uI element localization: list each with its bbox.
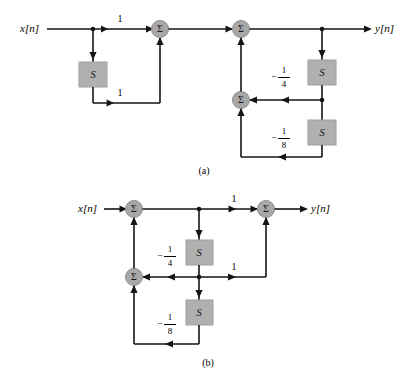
delay-b1-label: S: [196, 246, 202, 258]
adder-b2-label: Σ: [263, 203, 269, 214]
arrow-a-eighth-mid: [278, 153, 286, 160]
arrow-b-output: [300, 205, 308, 212]
adder-a3-label: Σ: [238, 94, 244, 105]
arrow-a-delay1-right: [107, 100, 114, 107]
gain-a-eighth-denominator: 8: [282, 140, 287, 150]
arrow-b-into-adder1-bottom: [130, 217, 137, 225]
arrow-b-quarter-mid: [167, 273, 175, 280]
adder-b1-label: Σ: [131, 203, 137, 214]
arrow-a-into-delay1: [89, 52, 96, 60]
arrow-b-into-delay2: [195, 290, 202, 298]
output-label-b: y[n]: [310, 202, 330, 214]
panel-b: Σ Σ S: [77, 193, 330, 369]
arrow-a-into-adder2-bottom: [237, 37, 244, 45]
gain-b-feedback-quarter-label: − 1 4: [157, 244, 176, 268]
arrow-b-ff-delayed-mid: [228, 273, 236, 280]
gain-b-quarter-denominator: 4: [168, 258, 173, 268]
arrow-a-into-adder3-right: [249, 96, 257, 103]
gain-b-eighth-sign: −: [157, 318, 163, 329]
panel-a: S Σ Σ S: [19, 13, 394, 177]
input-label-a: x[n]: [19, 22, 39, 34]
gain-a-eighth-numerator: 1: [282, 126, 287, 136]
arrow-a-quarter-mid: [281, 96, 289, 103]
arrow-b-into-adder3-bottom: [130, 285, 137, 293]
gain-a-feedback-quarter-label: − 1 4: [271, 65, 290, 89]
arrow-a-into-delay2: [318, 50, 325, 58]
gain-b-eighth-denominator: 8: [168, 326, 173, 336]
arrow-b-into-adder2-bottom: [262, 217, 269, 225]
gain-b-eighth-numerator: 1: [168, 312, 173, 322]
delay-b2-label: S: [196, 306, 202, 318]
arrow-a-output: [364, 25, 372, 32]
gain-a-quarter-denominator: 4: [282, 79, 287, 89]
gain-a-feedback-eighth-label: − 1 8: [271, 126, 290, 150]
input-label-b: x[n]: [77, 202, 97, 214]
delay-a1-label: S: [90, 68, 96, 80]
output-label-a: y[n]: [374, 22, 394, 34]
gain-a-quarter-numerator: 1: [282, 65, 287, 75]
delay-a2-label: S: [319, 66, 325, 78]
arrow-b-into-adder3-right: [142, 273, 150, 280]
arrow-a-into-adder1-bottom: [156, 37, 163, 45]
arrow-b-eighth-mid: [165, 340, 173, 347]
signal-flow-diagram: S Σ Σ S: [0, 0, 408, 386]
gain-b-quarter-sign: −: [157, 250, 163, 261]
panel-a-caption: (a): [198, 165, 209, 177]
arrow-b-top-mid: [229, 206, 237, 213]
gain-b-feedback-eighth-label: − 1 8: [157, 312, 176, 336]
adder-a1-label: Σ: [157, 23, 163, 34]
arrow-b-into-delay1: [195, 230, 202, 238]
arrow-b-into-adder2: [251, 206, 259, 213]
gain-a-feedforward-direct-label: 1: [118, 13, 123, 24]
panel-b-caption: (b): [202, 357, 214, 369]
gain-b-feedforward-direct-label: 1: [232, 193, 237, 204]
gain-a-eighth-sign: −: [271, 132, 277, 143]
gain-b-quarter-numerator: 1: [168, 244, 173, 254]
delay-a3-label: S: [319, 126, 325, 138]
gain-a-quarter-sign: −: [271, 71, 277, 82]
gain-a-feedforward-delayed-label: 1: [118, 87, 123, 98]
gain-b-feedforward-delayed-label: 1: [232, 261, 237, 272]
arrow-a-into-adder2: [226, 26, 234, 33]
arrow-a-into-adder3-bottom: [237, 108, 244, 116]
adder-b3-label: Σ: [131, 271, 137, 282]
arrow-a-ff-top-mid: [101, 26, 108, 33]
adder-a2-label: Σ: [238, 23, 244, 34]
figure-root: S Σ Σ S: [0, 0, 408, 386]
